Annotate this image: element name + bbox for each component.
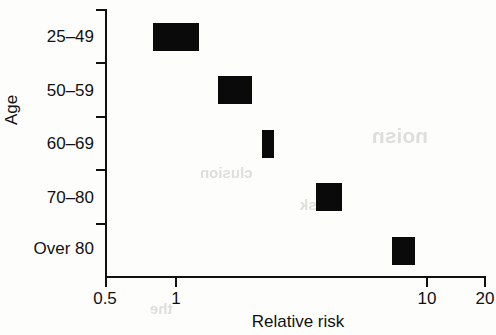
y-axis-tick: [96, 9, 105, 11]
x-axis-tick: [105, 278, 107, 287]
y-axis-line: [105, 9, 107, 278]
x-axis-tick: [426, 278, 428, 287]
y-axis-label-over-80: Over 80: [8, 240, 94, 257]
x-axis-title-text: Relative risk: [252, 313, 345, 330]
x-axis-label-1: 1: [156, 290, 196, 307]
y-axis-tick: [96, 169, 105, 171]
x-axis-label-10: 10: [407, 290, 447, 307]
x-axis-tick: [175, 278, 177, 287]
x-axis-label-20: 20: [465, 290, 496, 307]
y-axis-label-70-80: 70–80: [8, 189, 94, 206]
y-axis-title: Age: [3, 95, 20, 125]
risk-box-50-59: [218, 76, 253, 104]
x-axis-line: [105, 276, 486, 278]
x-axis-tick: [484, 278, 486, 287]
y-axis-label-25-49: 25–49: [8, 28, 94, 45]
plot-area: 25–49 50–59 60–69 70–80 Over 80 0.5 1 10…: [0, 0, 496, 335]
x-axis-label-0-5: 0.5: [85, 290, 125, 307]
figure-canvas: noisn clusion risk the 25–49 50–59 60–69…: [0, 0, 496, 335]
y-axis-tick: [96, 223, 105, 225]
y-axis-tick: [96, 116, 105, 118]
y-axis-tick: [96, 62, 105, 64]
risk-box-70-80: [316, 183, 342, 211]
x-axis-title: Relative risk: [0, 313, 496, 330]
risk-box-over-80: [392, 237, 414, 265]
y-axis-label-60-69: 60–69: [8, 135, 94, 152]
risk-box-60-69: [262, 130, 275, 158]
risk-box-25-49: [153, 23, 199, 51]
